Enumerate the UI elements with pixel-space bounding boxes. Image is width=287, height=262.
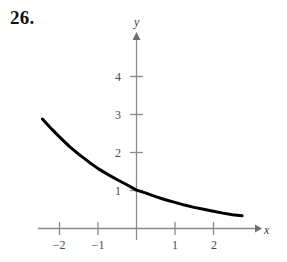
exercise-figure: 26. y x 1 2 3 4 −2 −1 1 2	[0, 0, 287, 262]
x-tick-label-1: 1	[165, 239, 185, 251]
y-tick-label-2: 2	[107, 147, 121, 159]
x-tick-label-2: 2	[204, 239, 224, 251]
y-tick-label-1: 1	[107, 185, 121, 197]
x-tick-label-neg2: −2	[49, 239, 69, 251]
exponential-curve	[42, 119, 242, 216]
y-tick-label-4: 4	[107, 71, 121, 83]
x-axis-arrowhead	[255, 225, 262, 233]
y-tick-label-3: 3	[107, 109, 121, 121]
x-tick-label-neg1: −1	[88, 239, 108, 251]
y-axis-label: y	[134, 16, 139, 28]
graph-plot	[0, 0, 287, 262]
x-axis-label: x	[264, 224, 269, 236]
y-axis-arrowhead	[133, 32, 141, 40]
